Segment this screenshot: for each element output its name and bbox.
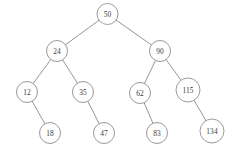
- tree-edge-35-to-47: [88, 101, 99, 123]
- tree-edge-24-to-35: [63, 60, 78, 83]
- tree-nodes-group: 502490123562115184783134: [17, 4, 225, 144]
- tree-edge-12-to-18: [32, 101, 45, 124]
- tree-node-90: 90: [150, 41, 171, 62]
- tree-canvas: 502490123562115184783134: [0, 0, 244, 157]
- node-label-18: 18: [46, 129, 54, 138]
- tree-node-83: 83: [147, 123, 168, 144]
- tree-edge-90-to-62: [145, 60, 156, 83]
- tree-node-134: 134: [200, 119, 224, 143]
- node-label-115: 115: [182, 86, 193, 95]
- node-label-50: 50: [104, 10, 112, 19]
- node-label-47: 47: [100, 129, 108, 138]
- node-label-62: 62: [136, 89, 144, 98]
- binary-tree-figure: 502490123562115184783134: [0, 0, 244, 157]
- node-label-24: 24: [53, 47, 61, 56]
- node-label-35: 35: [79, 88, 87, 97]
- tree-edge-115-to-134: [194, 100, 206, 120]
- node-label-12: 12: [23, 88, 31, 97]
- tree-node-18: 18: [40, 123, 61, 144]
- tree-edges-group: [32, 20, 206, 124]
- tree-node-12: 12: [17, 82, 38, 103]
- tree-node-62: 62: [130, 83, 151, 104]
- tree-edge-50-to-90: [116, 20, 151, 45]
- node-label-83: 83: [153, 129, 161, 138]
- tree-edge-90-to-115: [166, 60, 181, 81]
- tree-node-35: 35: [73, 82, 94, 103]
- node-label-134: 134: [206, 127, 218, 136]
- tree-node-115: 115: [176, 78, 200, 102]
- tree-edge-62-to-83: [144, 103, 153, 124]
- node-label-90: 90: [156, 47, 164, 56]
- tree-edge-50-to-24: [65, 20, 99, 45]
- tree-node-47: 47: [94, 123, 115, 144]
- tree-node-50: 50: [97, 4, 118, 25]
- tree-edge-24-to-12: [33, 59, 51, 83]
- tree-node-24: 24: [47, 41, 68, 62]
